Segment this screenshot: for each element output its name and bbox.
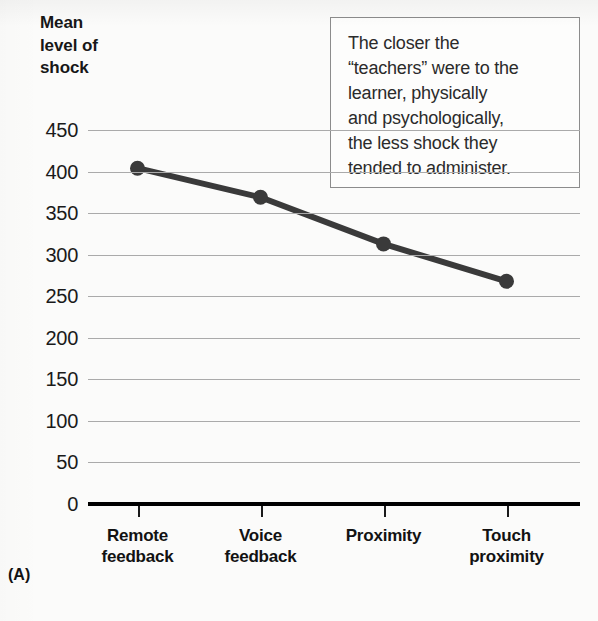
x-axis-tick (138, 506, 140, 517)
y-tick-label: 100 (8, 409, 78, 432)
y-tick-label: 200 (8, 326, 78, 349)
gridline (88, 421, 580, 422)
y-axis-title: Mean level of shock (40, 12, 98, 80)
x-axis-tick (261, 506, 263, 517)
chart-figure: Mean level of shock The closer the “teac… (0, 0, 598, 621)
y-tick-label: 250 (8, 285, 78, 308)
callout-text: The closer the “teachers” were to the le… (348, 31, 569, 181)
gridline (88, 379, 580, 380)
gridline (88, 213, 580, 214)
y-tick-label: 400 (8, 160, 78, 183)
gridline (88, 296, 580, 297)
y-tick-label: 350 (8, 202, 78, 225)
callout-box: The closer the “teachers” were to the le… (330, 17, 580, 188)
gridline (88, 255, 580, 256)
panel-label: (A) (8, 566, 30, 584)
x-axis-tick (507, 506, 509, 517)
x-axis-tick (384, 506, 386, 517)
gridline (88, 172, 580, 173)
y-tick-label: 300 (8, 243, 78, 266)
y-tick-label: 50 (8, 451, 78, 474)
y-tick-label: 0 (8, 493, 78, 516)
gridline (88, 462, 580, 463)
y-tick-label: 150 (8, 368, 78, 391)
gridline (88, 338, 580, 339)
gridline (88, 130, 580, 131)
y-tick-label: 450 (8, 119, 78, 142)
x-category-label: Touch proximity (432, 525, 582, 568)
